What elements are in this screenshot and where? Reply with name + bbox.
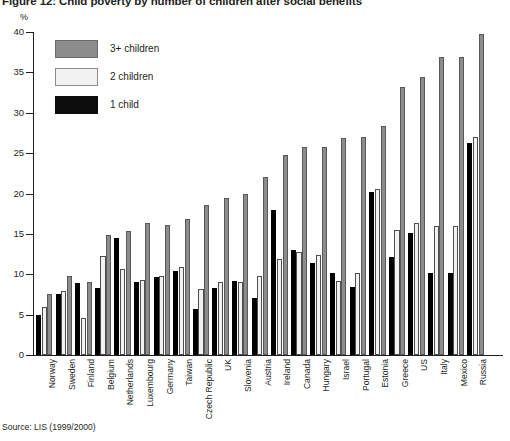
x-axis-label: Netherlands <box>125 359 135 405</box>
bar-2-children <box>336 281 341 355</box>
legend-label-1-child: 1 child <box>110 99 139 110</box>
bar-1-child <box>350 287 355 355</box>
bar-2-children <box>179 267 184 355</box>
bar-3-plus-children <box>106 235 111 355</box>
x-axis-label: UK <box>223 359 233 371</box>
bar-2-children <box>257 276 262 355</box>
bar-1-child <box>173 271 178 355</box>
x-axis-category-label: Hungary <box>321 359 331 391</box>
bar-3-plus-children <box>381 126 386 355</box>
x-axis-category-label: Greece <box>400 359 410 387</box>
bar-3-plus-children <box>87 282 92 355</box>
bar-2-children <box>61 291 66 355</box>
x-axis-category-label: Russia <box>478 359 488 385</box>
x-axis-label: Mexico <box>459 359 469 386</box>
y-axis-unit-label: % <box>20 12 28 22</box>
x-axis-label: Portugal <box>361 359 371 391</box>
x-axis-category-label: Estonia <box>380 359 390 388</box>
y-axis-tick-label: 10 <box>2 269 24 278</box>
y-axis-tick-label: 25 <box>2 148 24 157</box>
x-axis-label: Sweden <box>67 359 77 390</box>
bar-group <box>369 32 386 355</box>
bar-3-plus-children <box>302 147 307 355</box>
bar-2-children <box>394 230 399 355</box>
x-axis-label: Hungary <box>321 359 331 391</box>
bar-3-plus-children <box>341 138 346 355</box>
bar-3-plus-children <box>165 225 170 355</box>
bar-3-plus-children <box>185 219 190 355</box>
bar-3-plus-children <box>47 294 52 355</box>
bar-3-plus-children <box>400 87 405 355</box>
legend-item-1-child: 1 child <box>55 94 159 115</box>
x-axis-label: Norway <box>47 359 57 388</box>
source-note: Source: LIS (1999/2000) <box>2 422 96 432</box>
bar-1-child <box>95 288 100 355</box>
bar-2-children <box>375 189 380 355</box>
x-axis-label: Greece <box>400 359 410 387</box>
bar-2-children <box>218 282 223 355</box>
bar-2-children <box>198 289 203 355</box>
bar-3-plus-children <box>283 155 288 355</box>
bar-group <box>310 32 327 355</box>
y-axis-tick-label: 35 <box>2 67 24 76</box>
bar-2-children <box>159 276 164 355</box>
bar-1-child <box>408 233 413 355</box>
bar-group <box>408 32 425 355</box>
bar-3-plus-children <box>420 77 425 355</box>
bar-1-child <box>252 298 257 355</box>
bar-3-plus-children <box>67 276 72 355</box>
x-axis-category-label: US <box>419 359 429 371</box>
bar-1-child <box>193 309 198 355</box>
x-axis-category-label: Czech Republic <box>204 359 214 419</box>
x-axis-category-label: Israel <box>341 359 351 380</box>
bar-group <box>173 32 190 355</box>
bar-2-children <box>296 252 301 355</box>
bar-group <box>467 32 484 355</box>
bar-3-plus-children <box>145 223 150 355</box>
legend-item-3-children: 3+ children <box>55 38 159 59</box>
bar-3-plus-children <box>361 137 366 355</box>
x-axis-label: Slovenia <box>243 359 253 392</box>
x-axis-category-label: Mexico <box>459 359 469 386</box>
legend-label-3-children: 3+ children <box>110 43 159 54</box>
x-axis-label: US <box>419 359 429 371</box>
y-axis-tick-label: 15 <box>2 229 24 238</box>
x-axis-label: Belgium <box>106 359 116 390</box>
bar-1-child <box>369 192 374 355</box>
bar-1-child <box>212 288 217 355</box>
bar-1-child <box>114 238 119 355</box>
bar-2-children <box>42 307 47 355</box>
bar-3-plus-children <box>243 194 248 355</box>
bar-1-child <box>271 210 276 355</box>
bar-group <box>389 32 406 355</box>
bar-group <box>252 32 269 355</box>
bar-2-children <box>277 259 282 355</box>
bar-3-plus-children <box>479 34 484 355</box>
y-axis-tick-label: 0 <box>2 350 24 359</box>
bar-1-child <box>448 273 453 355</box>
bar-2-children <box>238 282 243 355</box>
x-axis-label: Canada <box>302 359 312 389</box>
bar-group <box>193 32 210 355</box>
bar-2-children <box>355 273 360 355</box>
legend-item-2-children: 2 children <box>55 66 159 87</box>
x-axis-category-label: Italy <box>439 359 449 375</box>
bar-group <box>330 32 347 355</box>
legend-swatch-2-children <box>55 68 98 86</box>
legend-swatch-3-children <box>55 40 98 58</box>
bar-group <box>36 32 53 355</box>
bar-1-child <box>75 283 80 355</box>
bar-1-child <box>291 250 296 355</box>
bar-3-plus-children <box>439 57 444 355</box>
y-axis-tick-label: 40 <box>2 27 24 36</box>
bar-3-plus-children <box>322 147 327 355</box>
bar-group <box>448 32 465 355</box>
x-axis-label: Luxembourg <box>145 359 155 407</box>
x-axis-label: Finland <box>86 359 96 387</box>
bar-group <box>291 32 308 355</box>
bar-group <box>428 32 445 355</box>
bar-3-plus-children <box>263 177 268 355</box>
x-axis-label: Czech Republic <box>204 359 214 419</box>
x-axis-category-label: Canada <box>302 359 312 389</box>
x-axis-category-label: Luxembourg <box>145 359 155 407</box>
